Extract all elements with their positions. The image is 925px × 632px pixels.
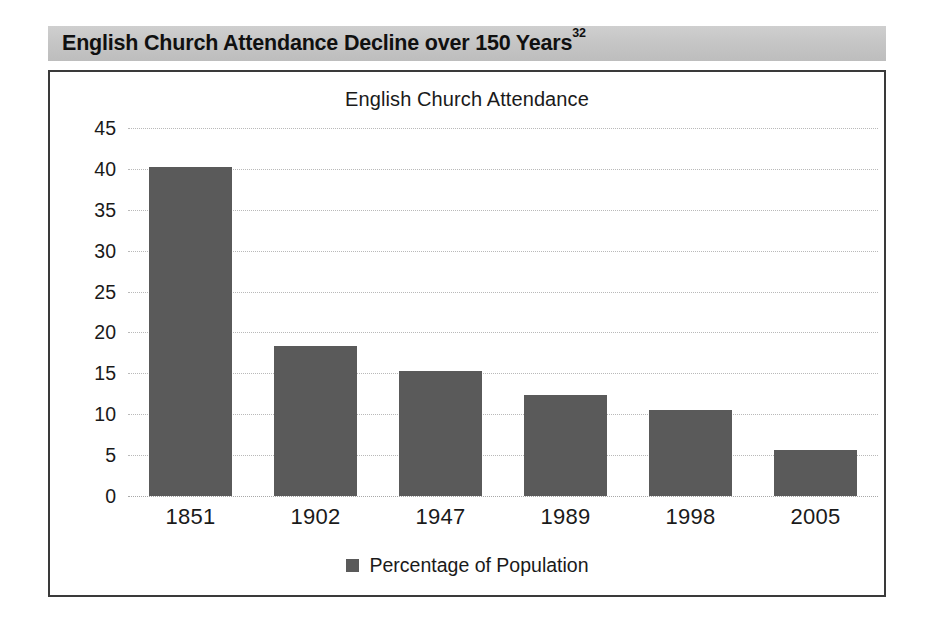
- chart-container: English Church Attendance 05101520253035…: [48, 70, 886, 597]
- bar-series-percentage-of-population: [128, 128, 878, 496]
- y-tick-label-45: 45: [70, 117, 116, 140]
- chart-legend: Percentage of Population: [50, 554, 884, 577]
- bar-2005[interactable]: [774, 450, 857, 496]
- x-axis: 185119021947198919982005: [128, 504, 878, 538]
- gridline-0: [128, 496, 878, 497]
- figure-caption-text: English Church Attendance Decline over 1…: [48, 31, 586, 56]
- y-tick-label-35: 35: [70, 198, 116, 221]
- x-tick-label-1947: 1947: [378, 504, 503, 530]
- chart-title: English Church Attendance: [50, 88, 884, 111]
- figure-footnote-marker: 32: [572, 26, 586, 40]
- y-tick-label-25: 25: [70, 280, 116, 303]
- x-tick-label-1851: 1851: [128, 504, 253, 530]
- x-tick-label-1998: 1998: [628, 504, 753, 530]
- figure-caption-banner: English Church Attendance Decline over 1…: [48, 26, 886, 61]
- bar-1851[interactable]: [149, 167, 232, 496]
- legend-swatch-percentage-of-population: [346, 559, 359, 572]
- x-tick-label-1902: 1902: [253, 504, 378, 530]
- x-tick-label-2005: 2005: [753, 504, 878, 530]
- bar-1998[interactable]: [649, 410, 732, 496]
- y-tick-label-0: 0: [70, 485, 116, 508]
- x-tick-label-1989: 1989: [503, 504, 628, 530]
- bar-1902[interactable]: [274, 346, 357, 496]
- y-tick-label-40: 40: [70, 157, 116, 180]
- legend-label-percentage-of-population: Percentage of Population: [370, 554, 589, 577]
- y-tick-label-20: 20: [70, 321, 116, 344]
- bar-1989[interactable]: [524, 395, 607, 496]
- y-tick-label-5: 5: [70, 444, 116, 467]
- y-tick-label-30: 30: [70, 239, 116, 262]
- y-tick-label-10: 10: [70, 403, 116, 426]
- bar-1947[interactable]: [399, 371, 482, 496]
- y-axis: 051015202530354045: [60, 128, 116, 496]
- figure-caption-label: English Church Attendance Decline over 1…: [62, 31, 572, 55]
- y-tick-label-15: 15: [70, 362, 116, 385]
